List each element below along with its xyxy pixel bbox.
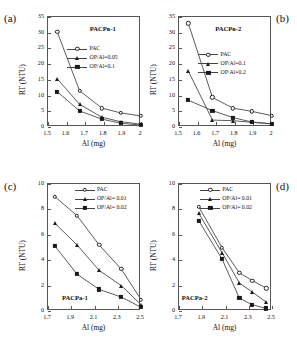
legend-symbol-filled-square [67, 63, 87, 72]
data-point-filled-square [55, 90, 59, 94]
y-tick [179, 311, 182, 312]
legend-marker-filled-square [75, 65, 79, 69]
y-axis-title-4: RT (NTU) [150, 240, 157, 271]
legend-label: OP/Al=0.05 [89, 55, 117, 61]
legend-label: PAC [222, 187, 233, 193]
legend-row: OP/Al= 0.01 [200, 195, 252, 204]
data-point-filled-triangle [55, 77, 59, 81]
series-lines [48, 17, 141, 127]
x-tick-label: 1.7 [211, 130, 219, 136]
y-tick-label: 35 [161, 13, 175, 19]
data-point-filled-square [53, 244, 57, 248]
data-point-filled-square [270, 122, 274, 126]
data-point-filled-square [75, 272, 79, 276]
figure-multi-panel-chart: (a)051015202530351.51.61.71.81.92Al (mg)… [0, 0, 297, 350]
legend-marker-filled-square [208, 206, 212, 210]
legend-symbol-filled-triangle [67, 54, 87, 63]
x-tick-label: 1.7 [43, 314, 51, 320]
legend-row: PAC [200, 186, 252, 195]
data-point-filled-triangle [186, 69, 190, 73]
x-axis-title-3: Al (mg) [47, 324, 140, 331]
plot-title-2: PACPв-2 [215, 26, 241, 33]
x-tick-label: 1.8 [230, 130, 238, 136]
legend-label: OP/Al= 0.02 [97, 205, 127, 211]
legend-symbol-open-circle [198, 50, 218, 59]
y-tick-label: 30 [161, 29, 175, 35]
legend-marker-filled-triangle [206, 62, 210, 66]
y-axis-title-3: RT (NTU) [19, 240, 26, 271]
x-tick-label: 2.1 [221, 314, 229, 320]
x-tick [272, 306, 273, 309]
legend-row: OP/Al=0.2 [198, 68, 245, 77]
y-tick-label: 0 [161, 123, 175, 129]
x-axis-title-1: Al (mg) [47, 140, 140, 147]
y-tick-label: 25 [30, 44, 44, 50]
y-tick-label: 4 [30, 256, 44, 262]
y-axis-title-1: RT (NTU) [19, 64, 26, 95]
data-point-filled-square [139, 305, 143, 309]
x-tick-label: 1.9 [197, 314, 205, 320]
data-point-filled-square [186, 98, 190, 102]
y-tick-label: 10 [30, 91, 44, 97]
data-point-open-circle [270, 113, 274, 117]
data-point-filled-square [237, 296, 241, 300]
data-point-filled-square [250, 303, 254, 307]
data-point-open-circle [139, 114, 143, 118]
x-tick-label: 2 [269, 130, 272, 136]
y-tick-label: 5 [161, 107, 175, 113]
legend-marker-open-circle [75, 47, 79, 51]
data-point-filled-triangle [264, 300, 268, 304]
legend-label: OP/Al= 0.02 [222, 205, 252, 211]
data-point-filled-triangle [119, 284, 123, 288]
data-point-filled-square [139, 123, 143, 127]
y-tick-label: 2 [161, 281, 175, 287]
data-point-filled-square [100, 117, 104, 121]
y-tick-label: 20 [161, 60, 175, 66]
y-axis-title-2: RT (NTU) [150, 64, 157, 95]
legend-label: OP/Al= 0.01 [222, 196, 252, 202]
data-point-filled-square [264, 306, 268, 310]
legend-symbol-filled-square [198, 68, 218, 77]
data-point-filled-triangle [78, 102, 82, 106]
x-tick-label: 2.5 [136, 314, 144, 320]
data-point-filled-square [210, 109, 214, 113]
legend-marker-filled-triangle [83, 197, 87, 201]
data-point-filled-square [119, 295, 123, 299]
x-tick-label: 2.3 [244, 314, 252, 320]
legend-label: OP/Al=0.1 [89, 64, 114, 70]
legend-marker-open-circle [206, 52, 210, 56]
data-point-filled-triangle [53, 221, 57, 225]
data-point-filled-square [231, 115, 235, 119]
y-tick-label: 20 [30, 60, 44, 66]
x-tick-label: 1.9 [118, 130, 126, 136]
data-point-open-circle [139, 297, 143, 301]
x-axis-title-4: Al (mg) [178, 324, 271, 331]
legend-row: PAC [198, 50, 245, 59]
y-tick-label: 2 [30, 281, 44, 287]
data-point-filled-square [118, 121, 122, 125]
data-point-filled-triangle [220, 251, 224, 255]
legend-row: OP/Al=0.05 [67, 54, 117, 63]
y-tick-label: 6 [161, 231, 175, 237]
y-tick-label: 10 [30, 180, 44, 186]
panel-letter-4: (d) [276, 180, 289, 192]
y-tick-label: 15 [30, 76, 44, 82]
legend-symbol-open-circle [75, 186, 95, 195]
x-tick-label: 1.6 [62, 130, 70, 136]
y-tick-label: 15 [161, 76, 175, 82]
y-tick-label: 10 [161, 180, 175, 186]
x-tick-label: 2.1 [90, 314, 98, 320]
data-point-filled-triangle [250, 290, 254, 294]
x-tick-label: 1.9 [66, 314, 74, 320]
y-tick-label: 30 [30, 29, 44, 35]
legend-4: PACOP/Al= 0.01OP/Al= 0.02 [200, 186, 252, 213]
y-tick-label: 10 [161, 91, 175, 97]
legend-row: OP/Al=0.1 [198, 59, 245, 68]
legend-marker-open-circle [83, 188, 87, 192]
x-tick-label: 2.3 [113, 314, 121, 320]
x-axis-title-2: Al (mg) [178, 140, 271, 147]
y-tick-label: 4 [161, 256, 175, 262]
legend-symbol-filled-square [75, 204, 95, 213]
legend-symbol-open-circle [200, 186, 220, 195]
x-tick-label: 1.7 [174, 314, 182, 320]
